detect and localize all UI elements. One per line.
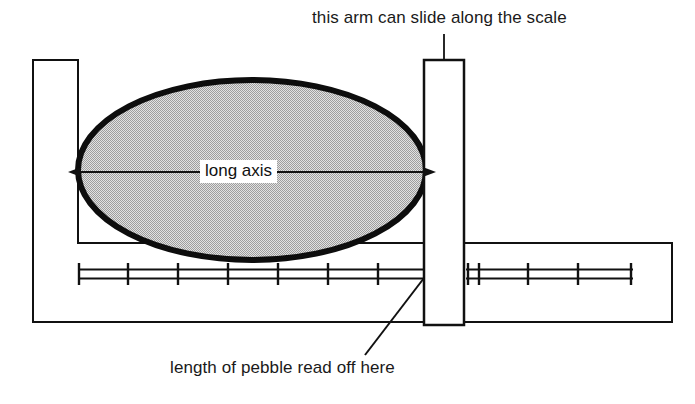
caption-read-off: length of pebble read off here — [170, 358, 395, 378]
caliper-diagram-svg — [0, 0, 695, 404]
label-long-axis: long axis — [200, 160, 277, 183]
sliding-arm[interactable] — [424, 60, 464, 325]
diagram-canvas: this arm can slide along the scale lengt… — [0, 0, 695, 404]
sliding-arm-group[interactable] — [424, 60, 464, 325]
caption-sliding-arm: this arm can slide along the scale — [312, 8, 567, 28]
